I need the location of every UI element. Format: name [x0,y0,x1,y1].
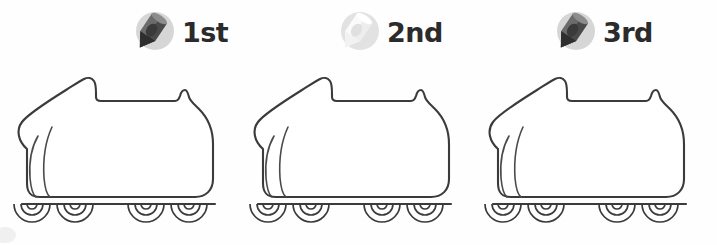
skate-wheel-2 [57,204,93,222]
skate-wheel-2 [293,204,329,222]
skate-wheel-3 [599,204,635,222]
ordinal-label: 2nd [387,19,443,46]
skate-wheel-4 [407,204,443,222]
inline-skate-drawing [0,56,239,245]
badge-row-1: 1st [0,0,239,62]
badge-row-3: 3rd [471,0,710,62]
skate-wheel-1 [250,204,286,222]
inline-skate-drawing [471,56,710,245]
skate-wheel-4 [171,204,207,222]
badge-row-2: 2nd [236,0,475,62]
skate-wheel-3 [364,204,400,222]
skate-panel-2: 2nd [236,0,475,245]
skate-panel-1: 1st [0,0,239,245]
ordinal-label: 1st [182,19,228,46]
pen-icon [126,5,178,57]
worksheet-canvas: 1st [0,0,717,245]
skate-panel-3: 3rd [471,0,710,245]
ordinal-label: 3rd [603,19,653,46]
pen-icon [331,5,383,57]
inline-skate-drawing [236,56,475,245]
skate-wheel-4 [642,204,678,222]
skate-wheel-3 [128,204,164,222]
skate-wheel-1 [485,204,521,222]
skate-wheel-1 [14,204,50,222]
skate-wheel-2 [528,204,564,222]
pen-icon [547,5,599,57]
